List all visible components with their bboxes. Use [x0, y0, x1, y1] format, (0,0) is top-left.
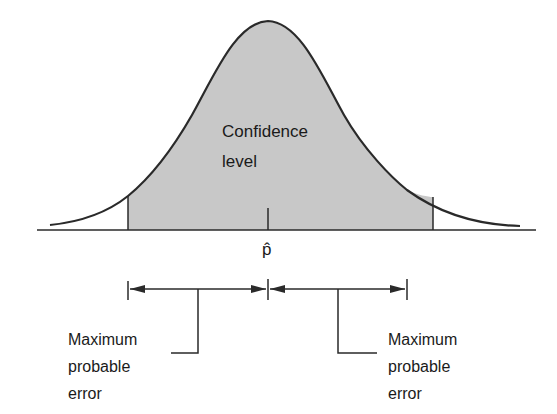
- error-bars: [128, 279, 407, 353]
- right-arrowhead-left: [270, 285, 285, 293]
- right-arrowhead-right: [390, 285, 405, 293]
- right-leader-line: [338, 289, 377, 353]
- right-error-label: Maximum probable error: [388, 326, 457, 407]
- right-error-label-line3: error: [388, 380, 457, 407]
- confidence-label-line2: level: [222, 147, 308, 177]
- left-error-label: Maximum probable error: [68, 326, 137, 407]
- left-error-label-line3: error: [68, 380, 137, 407]
- left-leader-line: [171, 289, 198, 353]
- left-error-label-line2: probable: [68, 353, 137, 380]
- confidence-label-line1: Confidence: [222, 117, 308, 147]
- confidence-label: Confidence level: [222, 117, 308, 177]
- left-error-label-line1: Maximum: [68, 326, 137, 353]
- right-error-label-line2: probable: [388, 353, 457, 380]
- p-hat-label: p̂: [262, 236, 271, 263]
- left-arrowhead-left: [130, 285, 145, 293]
- left-arrowhead-right: [251, 285, 266, 293]
- right-error-label-line1: Maximum: [388, 326, 457, 353]
